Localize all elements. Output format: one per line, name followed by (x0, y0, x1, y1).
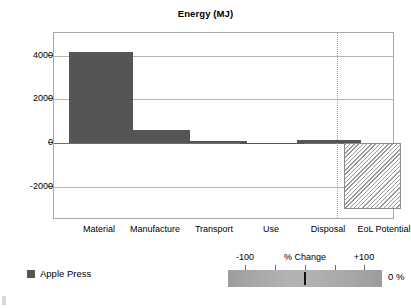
legend: Apple Press (27, 268, 91, 279)
corner-artifact (2, 296, 6, 305)
scale-label-title: % Change (284, 252, 326, 262)
bar-manufacture[interactable] (126, 130, 190, 143)
legend-swatch-apple-press (27, 270, 35, 278)
eol-divider (337, 33, 338, 218)
percent-change-scale: -100 % Change +100 0 % (228, 252, 382, 287)
bar-material[interactable] (69, 52, 133, 143)
scale-label-max: +100 (354, 252, 374, 262)
zero-baseline (54, 143, 393, 144)
scale-label-min: -100 (236, 252, 254, 262)
scale-indicator[interactable] (304, 272, 306, 285)
x-label-eol-potential: EoL Potential (339, 224, 411, 234)
scale-gradient-bar[interactable] (228, 270, 382, 287)
y-tick-label-4000: 4000 (9, 50, 53, 60)
y-tick-label-2000: 2000 (9, 93, 53, 103)
bar-use[interactable] (240, 143, 304, 144)
y-tick-label-0: 0 (9, 137, 53, 147)
bar-eol-potential[interactable] (344, 143, 401, 209)
x-axis-labels: Material Manufacture Transport Use Dispo… (53, 224, 394, 238)
scale-labels: -100 % Change +100 (228, 252, 382, 264)
gridline-neg2000 (54, 187, 393, 188)
y-tick-label-neg2000: -2000 (9, 181, 53, 191)
chart-title: Energy (MJ) (0, 8, 411, 19)
plot-area (53, 32, 394, 219)
y-axis: 4000 2000 0 -2000 (0, 32, 53, 219)
bar-transport[interactable] (183, 141, 247, 143)
legend-label-apple-press: Apple Press (40, 268, 91, 279)
scale-current-value: 0 % (388, 271, 404, 282)
